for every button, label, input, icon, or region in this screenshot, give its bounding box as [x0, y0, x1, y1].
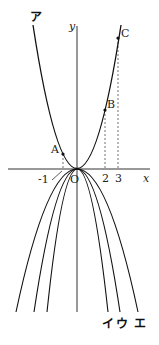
label-point-b: B — [107, 98, 115, 111]
label-x-axis: x — [143, 172, 150, 185]
label-curve-i: イ — [102, 317, 114, 331]
tick-three: 3 — [115, 172, 122, 185]
label-curve-u: ウ — [116, 317, 128, 331]
label-curve-e: エ — [134, 317, 146, 331]
label-point-c: C — [121, 27, 129, 40]
tick-two: 2 — [102, 172, 109, 185]
label-curve-a: ア — [30, 10, 42, 24]
label-origin: O — [70, 173, 79, 186]
arrow-minus-one — [52, 171, 62, 180]
label-point-a: A — [50, 143, 60, 156]
tick-minus-one: -1 — [38, 173, 49, 186]
point-c — [116, 36, 119, 39]
graph-canvas: ア y x O -1 2 3 A B C イ ウ エ — [0, 0, 159, 345]
label-y-axis: y — [68, 20, 76, 33]
point-a — [61, 152, 64, 155]
